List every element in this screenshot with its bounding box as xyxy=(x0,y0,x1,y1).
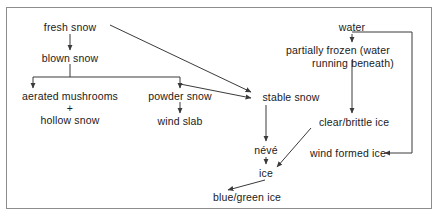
node-label: water xyxy=(339,21,365,33)
node-label: fresh snow xyxy=(44,21,96,33)
node-label-line1: partially frozen (water xyxy=(286,44,394,57)
node-wind-slab: wind slab xyxy=(157,115,202,127)
node-wind-formed-ice: wind formed ice xyxy=(310,147,386,159)
node-label: névé xyxy=(254,144,277,156)
node-blue-green-ice: blue/green ice xyxy=(213,191,281,203)
node-label: wind formed ice xyxy=(310,147,386,159)
node-label: aerated mushrooms xyxy=(22,90,118,102)
node-label-line2: running beneath) xyxy=(286,57,394,70)
node-blown-snow: blown snow xyxy=(42,52,98,64)
node-ice: ice xyxy=(259,167,273,179)
node-label: stable snow xyxy=(262,91,319,103)
node-label: wind slab xyxy=(157,115,202,127)
node-label-hollow-snow: hollow snow xyxy=(22,114,118,126)
node-aerated-mushrooms: aerated mushrooms + hollow snow xyxy=(22,90,118,126)
node-label: powder snow xyxy=(148,90,212,102)
diagram-canvas: fresh snow blown snow aerated mushrooms … xyxy=(0,0,440,222)
node-clear-brittle-ice: clear/brittle ice xyxy=(319,116,389,128)
node-label: clear/brittle ice xyxy=(319,116,389,128)
node-powder-snow: powder snow xyxy=(148,90,212,102)
node-neve: névé xyxy=(254,144,277,156)
node-fresh-snow: fresh snow xyxy=(44,21,96,33)
node-label-plus: + xyxy=(22,102,118,114)
node-water: water xyxy=(339,21,365,33)
node-label: blown snow xyxy=(42,52,98,64)
node-stable-snow: stable snow xyxy=(262,91,319,103)
node-partially-frozen: partially frozen (water running beneath) xyxy=(286,44,394,70)
node-label: blue/green ice xyxy=(213,191,281,203)
node-label: ice xyxy=(259,167,273,179)
